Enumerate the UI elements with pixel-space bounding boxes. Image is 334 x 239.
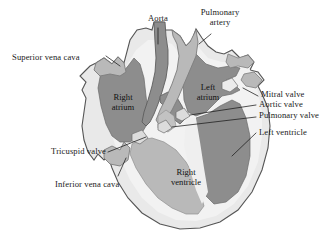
label-left-ventricle: Left ventricle [259, 128, 307, 138]
superior-vena-cava-vessel [94, 57, 126, 76]
label-right-ventricle-line1: Right [176, 167, 195, 177]
label-pulmonary-artery-line1: Pulmonary [201, 7, 240, 17]
label-superior-vena-cava: Superior vena cava [12, 53, 80, 63]
label-right-ventricle: Right ventricle [158, 168, 214, 188]
label-left-atrium-line2: atrium [197, 92, 219, 102]
label-right-atrium: Right atrium [98, 93, 148, 113]
label-tricuspid-valve: Tricuspid valve [18, 147, 106, 157]
label-aorta: Aorta [128, 14, 188, 24]
heart-anatomy-figure: Aorta Pulmonary artery Superior vena cav… [0, 0, 334, 239]
label-pulmonary-valve: Pulmonary valve [259, 111, 319, 121]
pulmonary-veins-vessel [226, 54, 254, 68]
label-left-atrium-line1: Left [201, 82, 215, 92]
label-aortic-valve: Aortic valve [259, 100, 303, 110]
label-left-atrium: Left atrium [186, 83, 230, 103]
label-right-ventricle-line2: ventricle [171, 177, 201, 187]
label-pulmonary-artery: Pulmonary artery [188, 8, 252, 27]
label-pulmonary-artery-line2: artery [210, 17, 231, 27]
label-right-atrium-line2: atrium [112, 102, 134, 112]
label-right-atrium-line1: Right [113, 92, 132, 102]
label-inferior-vena-cava: Inferior vena cava [55, 180, 119, 190]
